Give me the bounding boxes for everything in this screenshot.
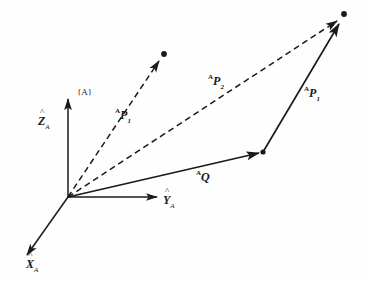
vector-ap1-from-q-label: AP1 [304, 84, 320, 103]
vector-ap1-from-q [263, 11, 347, 152]
x-axis-line [27, 197, 68, 255]
vector-aq-label: AQ [196, 168, 210, 187]
hat-accent-icon: ^ [40, 108, 44, 117]
z-axis-label: ^ZA [38, 112, 50, 131]
hat-accent-icon: ^ [28, 251, 32, 260]
x-axis-letter: ^X [26, 257, 34, 271]
vector-ap1-from-origin-line [68, 61, 159, 197]
z-axis-letter: ^Z [38, 114, 45, 128]
y-axis-letter: ^Y [163, 193, 170, 207]
vector-ap2-label: AP2 [208, 72, 224, 91]
vector-ap1-from-q-line [263, 24, 339, 152]
x-axis-label: ^XA [26, 255, 38, 274]
z-axis-subscript: A [45, 123, 49, 131]
ap2-subscript: 2 [220, 83, 224, 91]
ap1-right-subscript: 1 [316, 95, 320, 103]
aq-base: Q [201, 170, 210, 184]
vector-ap1-from-origin-label: AP1 [115, 106, 131, 125]
y-axis-label: ^YA [163, 191, 175, 210]
diagram-canvas [0, 0, 365, 282]
ap1-lower-subscript: 1 [127, 117, 131, 125]
vector-ap1-from-q-endpoint-dot [341, 11, 347, 17]
x-axis-subscript: A [34, 266, 38, 274]
y-axis-subscript: A [170, 202, 174, 210]
hat-accent-icon: ^ [165, 187, 169, 196]
vector-ap1-from-origin-endpoint-dot [161, 51, 167, 57]
frame-label: {A} [77, 88, 92, 97]
vector-diagram-figure: {A} ^ZA ^YA ^XA AP1 AP2 AP1 AQ [0, 0, 365, 282]
